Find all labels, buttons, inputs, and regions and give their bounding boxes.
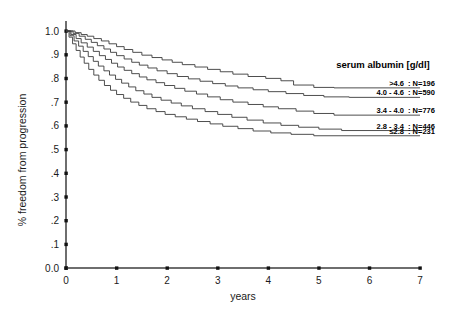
y-tick-label: .5 [51,144,60,155]
legend-entry: >4.6: N=196 [389,79,435,88]
y-tick-label: .9 [51,49,60,60]
chart-figure: 0.0.1.2.3.4.5.6.7.8.91.0 01234567 serum … [0,0,453,317]
legend-entry-value: : N=196 [408,79,435,88]
y-axis: 0.0.1.2.3.4.5.6.7.8.91.0 [45,21,68,274]
x-tick-mark [317,266,320,269]
x-tick-mark [216,266,219,269]
kaplan-meier-plot: 0.0.1.2.3.4.5.6.7.8.91.0 01234567 serum … [0,0,453,317]
y-tick-label: .1 [51,239,60,250]
legend-entry-value: : N=776 [408,106,435,115]
x-tick-label: 0 [63,275,69,286]
y-tick-label: .4 [51,168,60,179]
x-tick-mark [267,266,270,269]
legend-entry-value: : N=590 [408,88,435,97]
y-tick-mark [64,148,67,151]
y-tick-mark [64,243,67,246]
y-tick-label: 0.0 [45,263,59,274]
x-tick-mark [64,266,67,269]
x-tick-label: 3 [215,275,221,286]
survival-curve-776 [66,31,420,115]
y-tick-label: .3 [51,192,60,203]
x-tick-mark [368,266,371,269]
survival-curves [66,31,420,136]
legend-entry: 4.0 - 4.6: N=590 [376,88,434,97]
y-tick-label: .2 [51,215,60,226]
y-tick-mark [64,53,67,56]
x-axis: 01234567 [63,266,423,286]
y-tick-mark [64,124,67,127]
x-tick-label: 6 [367,275,373,286]
x-axis-ticks: 01234567 [63,266,423,286]
y-tick-mark [64,172,67,175]
x-tick-label: 7 [417,275,423,286]
y-tick-mark [64,195,67,198]
legend-entry-key: 3.4 - 4.0 [376,106,404,115]
x-tick-label: 1 [114,275,120,286]
survival-curve-446 [66,31,420,131]
legend-title: serum albumin [g/dl] [336,59,429,70]
x-axis-title: years [230,290,256,302]
legend-entry: ≤2.8: N=231 [389,127,434,136]
legend-entry-key: ≤2.8 [389,127,404,136]
y-tick-label: .8 [51,73,60,84]
y-axis-title: % freedom from progression [16,94,28,227]
legend-entry-value: : N=231 [408,127,435,136]
y-tick-mark [64,219,67,222]
legend-entry-key: >4.6 [389,79,404,88]
legend-entries: >4.6: N=1964.0 - 4.6: N=5903.4 - 4.0: N=… [376,79,434,136]
y-tick-mark [64,101,67,104]
x-tick-label: 5 [316,275,322,286]
y-axis-ticks: 0.0.1.2.3.4.5.6.7.8.91.0 [45,26,68,274]
legend-entry: 3.4 - 4.0: N=776 [376,106,434,115]
x-tick-label: 4 [266,275,272,286]
y-tick-mark [64,77,67,80]
x-tick-label: 2 [164,275,170,286]
y-tick-label: .6 [51,120,60,131]
x-tick-mark [418,266,421,269]
y-tick-label: 1.0 [45,26,59,37]
legend-entry-key: 4.0 - 4.6 [376,88,404,97]
x-tick-mark [166,266,169,269]
x-tick-mark [115,266,118,269]
y-tick-label: .7 [51,97,60,108]
